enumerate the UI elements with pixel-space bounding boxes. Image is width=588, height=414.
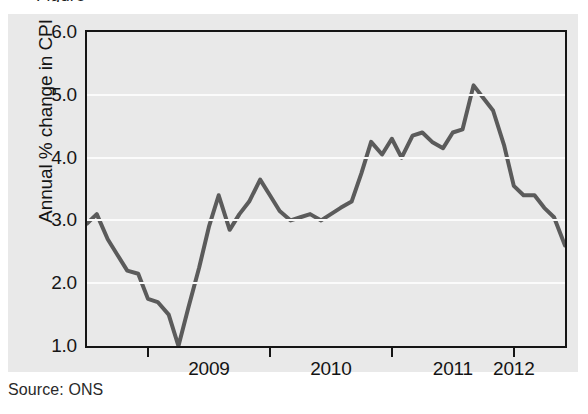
x-axis-tick-label: 2012 [493,358,534,380]
gridline [87,282,565,284]
chart-card: Annual % change in CPI 1.02.03.04.05.06.… [8,14,578,372]
x-axis-ticks: 2009201020112012 [85,348,567,382]
x-axis-tick-mark [391,348,393,357]
x-axis-tick-mark [269,348,271,357]
x-axis-tick-label: 2010 [310,358,351,380]
y-axis-tick-label: 6.0 [51,21,77,43]
y-axis-tick-label: 1.0 [51,335,77,357]
y-axis-tick-label: 5.0 [51,84,77,106]
plot-area [85,30,567,348]
gridline [87,94,565,96]
y-axis-tick-label: 3.0 [51,209,77,231]
x-axis-tick-label: 2011 [433,358,473,380]
y-axis-ticks: 1.02.03.04.05.06.0 [8,28,85,358]
cpi-line-series [87,32,565,346]
x-axis-tick-label: 2009 [188,358,229,380]
gridline [87,219,565,221]
source-note: Source: ONS [8,381,103,399]
x-axis-tick-mark [147,348,149,357]
y-axis-tick-label: 4.0 [51,147,77,169]
y-axis-tick-label: 2.0 [51,272,77,294]
x-axis-tick-mark [513,348,515,357]
plot-inner [87,32,565,346]
gridline [87,157,565,159]
